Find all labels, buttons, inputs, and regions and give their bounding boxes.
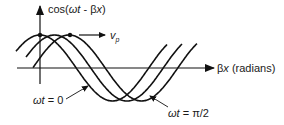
velocity-label: vp: [110, 29, 120, 44]
x-axis-label: βx (radians): [217, 62, 275, 74]
annotation-wt0: ωt = 0: [33, 94, 63, 106]
annotation-arrow-wt0: [66, 86, 88, 99]
peak-dot-wtpi2: [68, 33, 72, 37]
annotation-arrow-wtpi2: [150, 96, 168, 107]
y-axis-label: cos(ωt - βx): [48, 3, 106, 15]
wave-diagram: vp cos(ωt - βx) βx (radians) ωt = 0 ωt =…: [0, 0, 284, 125]
peak-dot-wt0: [38, 33, 42, 37]
annotation-wtpi2: ωt = π/2: [168, 107, 209, 119]
